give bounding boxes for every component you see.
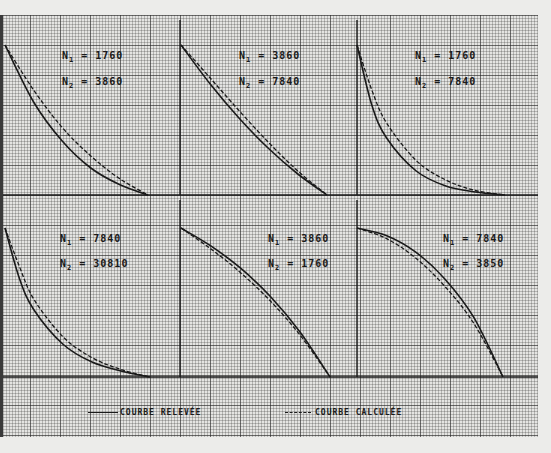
panel-6-measured-curve <box>357 228 503 377</box>
panel-4-n1-label: N1 = 7840 <box>60 233 121 247</box>
panel-1-calculated-curve <box>5 45 148 195</box>
panel-3-n1-label: N1 = 1760 <box>415 50 476 64</box>
legend-measured: COURBE RELEVÉE <box>88 408 201 417</box>
legend-measured-label: COURBE RELEVÉE <box>120 408 201 417</box>
panel-1-measured-curve <box>5 45 148 195</box>
panel-5-n1-label: N1 = 3860 <box>268 233 329 247</box>
legend-calculated: COURBE CALCULÉE <box>285 408 402 417</box>
dashed-line-swatch-icon <box>285 412 311 413</box>
legend-calculated-label: COURBE CALCULÉE <box>315 408 402 417</box>
panel-4-n2-label: N2 = 30810 <box>60 258 128 272</box>
panel-2-n2-label: N2 = 7840 <box>239 76 300 90</box>
panel-3-calculated-curve <box>357 45 505 195</box>
panel-3-n2-label: N2 = 7840 <box>415 76 476 90</box>
solid-line-swatch-icon <box>88 412 118 413</box>
panel-6-n2-label: N2 = 3850 <box>443 258 504 272</box>
panel-2-calculated-curve <box>181 45 327 195</box>
panel-4-measured-curve <box>5 228 150 377</box>
panel-1-n1-label: N1 = 1760 <box>62 50 123 64</box>
panel-1-n2-label: N2 = 3860 <box>62 76 123 90</box>
panel-5-n2-label: N2 = 1760 <box>268 258 329 272</box>
plot-area <box>0 0 551 453</box>
panel-2-n1-label: N1 = 3860 <box>239 50 300 64</box>
panel-6-calculated-curve <box>357 228 503 377</box>
panel-5-measured-curve <box>181 228 330 377</box>
panel-5-calculated-curve <box>181 228 330 377</box>
panel-6-n1-label: N1 = 7840 <box>443 233 504 247</box>
panel-2-measured-curve <box>181 45 327 195</box>
